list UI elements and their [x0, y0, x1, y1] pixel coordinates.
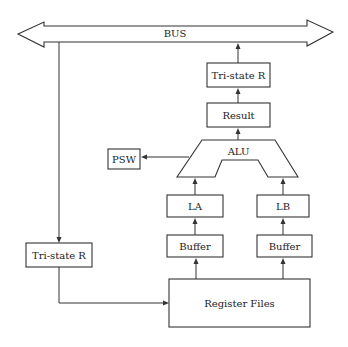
la-label: LA: [188, 201, 203, 212]
arrowhead-icon: [193, 218, 198, 224]
arrowhead-icon: [193, 178, 198, 184]
cpu-datapath-diagram: BUS Tri-state R Result ALU PSW LA LB: [0, 0, 348, 347]
lb-box: LB: [257, 195, 309, 217]
bus-label: BUS: [164, 28, 187, 39]
result-box: Result: [207, 103, 270, 127]
buffer-left-box: Buffer: [167, 235, 223, 257]
bus: BUS: [18, 20, 333, 47]
arrowhead-icon: [236, 88, 241, 94]
buffer-right-box: Buffer: [257, 235, 312, 257]
tristate-top-box: Tri-state R: [207, 63, 270, 87]
tristate-left-label: Tri-state R: [32, 250, 86, 261]
arrowhead-icon: [236, 128, 241, 134]
arrowhead-icon: [281, 218, 286, 224]
buffer-left-label: Buffer: [179, 241, 211, 252]
buffer-right-label: Buffer: [269, 241, 301, 252]
alu: ALU: [177, 140, 298, 177]
arrowhead-icon: [163, 301, 169, 306]
result-label: Result: [222, 110, 254, 121]
arrowhead-icon: [194, 258, 199, 264]
register-files-label: Register Files: [204, 298, 274, 309]
arrowhead-icon: [281, 258, 286, 264]
tristate-top-label: Tri-state R: [212, 70, 266, 81]
register-files-box: Register Files: [169, 279, 310, 327]
la-box: LA: [167, 195, 223, 217]
lb-label: LB: [276, 201, 290, 212]
arrowhead-icon: [281, 178, 286, 184]
arrowhead-icon: [141, 155, 147, 160]
arrowhead-icon: [57, 237, 62, 243]
tristate-left-box: Tri-state R: [26, 243, 92, 267]
psw-box: PSW: [108, 149, 140, 169]
arrowhead-icon: [236, 43, 241, 49]
tristate-left-to-regfile-line: [59, 267, 165, 303]
alu-label: ALU: [227, 146, 250, 157]
psw-label: PSW: [112, 154, 137, 165]
